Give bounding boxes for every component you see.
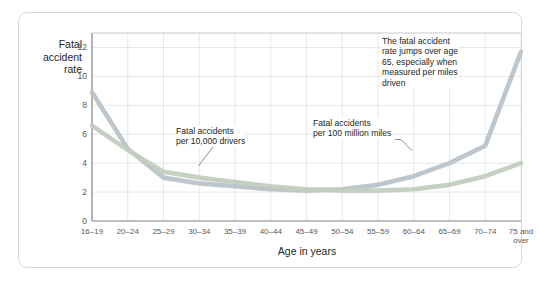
annotation-drivers-line-2: per 10,000 drivers [176,136,245,146]
annotation-callout-line-1: The fatal accident [382,36,458,46]
annotation-callout-line-3: 65, especially when [382,57,458,67]
annotation-drivers-line-1: Fatal accidents [176,126,245,136]
annotation-callout-line-4: measured per miles [382,67,458,77]
x-axis-title: Age in years [92,245,522,257]
annotation-callout-age-65: The fatal accident rate jumps over age 6… [382,36,458,88]
annotation-callout-line-5: driven [382,78,458,88]
annotation-miles-line-1: Fatal accidents [313,118,391,128]
annotation-miles-line-2: per 100 million miles [313,128,391,138]
plot-area [0,0,540,281]
annotation-per-10000-drivers: Fatal accidents per 10,000 drivers [176,126,245,147]
annotation-callout-line-2: rate jumps over age [382,46,458,56]
chart-root: Fatal accident rate 024681012 16–1920–24… [0,0,540,281]
annotation-per-100-million-miles: Fatal accidents per 100 million miles [313,118,391,139]
leader-line-miles [395,140,412,151]
